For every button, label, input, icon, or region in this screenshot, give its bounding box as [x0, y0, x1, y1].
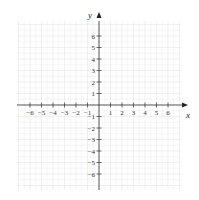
coordinate-plane: x y −6−5−4−3−2−1123456654321−1−2−3−4−5−6 — [0, 0, 199, 200]
x-tick-label: −2 — [72, 109, 80, 117]
y-tick-label: 5 — [92, 44, 96, 52]
x-tick-label: 5 — [155, 109, 159, 117]
x-tick-label: 1 — [109, 109, 113, 117]
y-tick-label: 6 — [92, 33, 96, 41]
x-tick-label: −4 — [49, 109, 57, 117]
axes: x y — [17, 10, 190, 190]
x-axis-label: x — [185, 110, 190, 120]
y-tick-label: 3 — [92, 67, 96, 75]
y-tick-label: −2 — [88, 125, 96, 133]
y-tick-label: 4 — [92, 56, 96, 64]
y-tick-label: −6 — [88, 171, 96, 179]
y-axis-arrow-icon — [97, 12, 102, 18]
x-tick-label: 3 — [132, 109, 136, 117]
y-tick-label: −5 — [88, 159, 96, 167]
y-axis-label: y — [87, 10, 92, 20]
y-tick-label: 1 — [92, 90, 96, 98]
y-tick-label: −4 — [88, 148, 96, 156]
y-tick-label: 2 — [92, 79, 96, 87]
x-axis-arrow-icon — [182, 103, 188, 108]
x-tick-label: −3 — [61, 109, 69, 117]
y-tick-label: −3 — [88, 136, 96, 144]
y-tick-label: −1 — [88, 113, 96, 121]
x-tick-label: −6 — [26, 109, 34, 117]
x-tick-label: 6 — [166, 109, 170, 117]
x-tick-label: −5 — [38, 109, 46, 117]
x-tick-label: 4 — [143, 109, 147, 117]
x-tick-label: 2 — [120, 109, 124, 117]
